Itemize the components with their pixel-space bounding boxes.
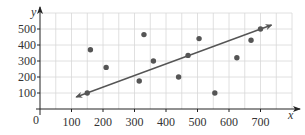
y-axis-label: y: [30, 5, 37, 19]
y-tick-label: 200: [18, 70, 36, 84]
data-point: [234, 55, 239, 60]
data-point: [88, 47, 93, 52]
scatter-chart: 100200300400500600700100200300400500 x y…: [0, 0, 305, 135]
data-point: [103, 65, 108, 70]
x-axis-label: x: [287, 108, 294, 122]
x-tick-label: 100: [63, 115, 81, 129]
data-point: [151, 58, 156, 63]
x-tick-label: 400: [157, 115, 175, 129]
x-tick-label: 500: [189, 115, 207, 129]
data-point: [137, 78, 142, 83]
data-point: [141, 32, 146, 37]
data-point: [176, 74, 181, 79]
x-tick-label: 700: [252, 115, 270, 129]
x-tick-label: 200: [94, 115, 112, 129]
data-point: [185, 53, 190, 58]
y-tick-label: 300: [18, 54, 36, 68]
data-point: [85, 90, 90, 95]
y-tick-label: 500: [18, 22, 36, 36]
y-tick-label: 100: [18, 86, 36, 100]
origin-label: 0: [33, 113, 39, 127]
data-point: [258, 26, 263, 31]
data-point: [196, 36, 201, 41]
grid-lines: [40, 13, 292, 109]
data-point: [212, 90, 217, 95]
x-tick-label: 300: [126, 115, 144, 129]
y-tick-label: 400: [18, 38, 36, 52]
x-tick-label: 600: [220, 115, 238, 129]
data-point: [248, 38, 253, 43]
